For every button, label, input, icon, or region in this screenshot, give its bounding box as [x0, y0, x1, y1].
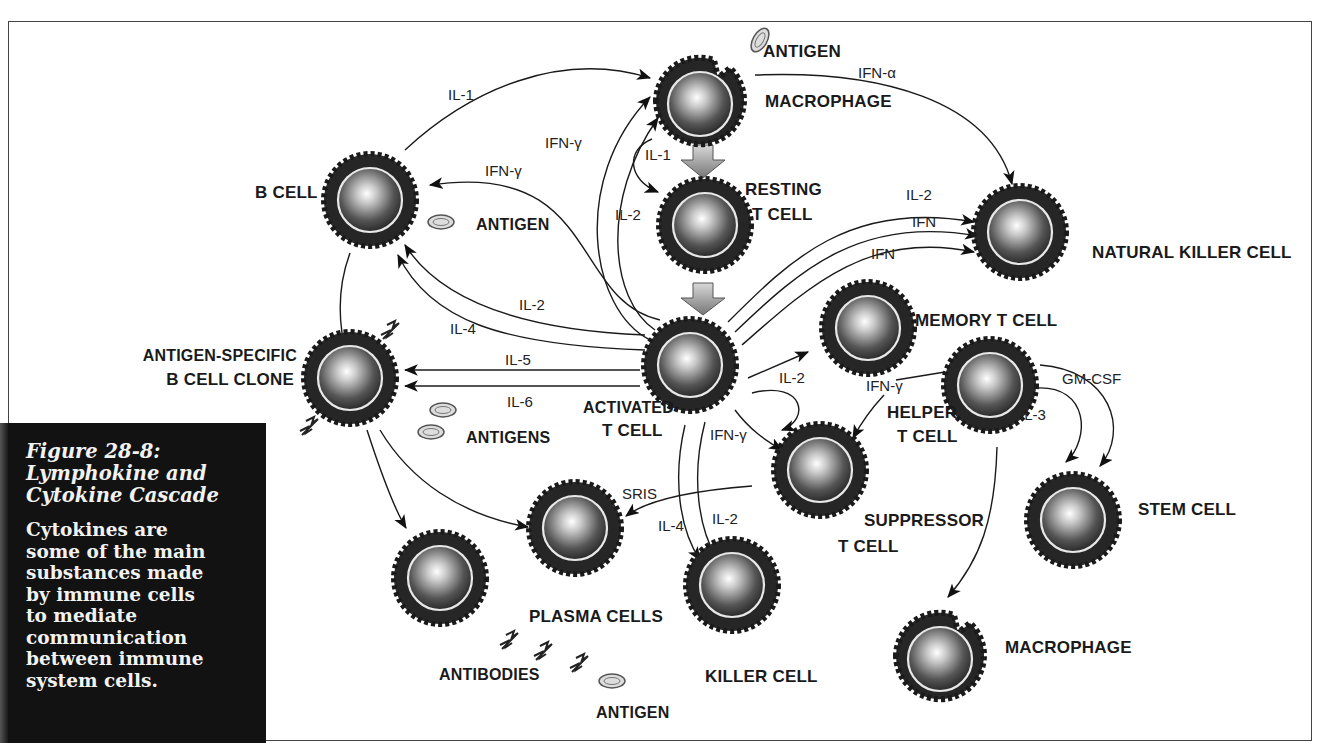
antigens-label: ANTIGENS — [466, 429, 550, 446]
activated-t-cell-label: T CELL — [602, 421, 663, 440]
suppressor-label: SUPPRESSOR — [864, 511, 984, 530]
caption-line: communication — [26, 627, 252, 649]
stem-cell-label: STEM CELL — [1138, 500, 1236, 519]
natural-killer-cell-icon — [974, 186, 1066, 278]
arrow-il1-b-to-macrophage — [405, 69, 650, 150]
caption-edge — [0, 423, 8, 743]
plasma-cell-2-icon — [394, 532, 486, 624]
cytokine-label: IL-3 — [1020, 406, 1046, 423]
cytokine-label: SRIS — [622, 485, 657, 502]
suppressor-t-cell-icon — [774, 424, 866, 516]
caption-line: system cells. — [26, 670, 252, 692]
figure-caption-box: Figure 28-8: Lymphokine and Cytokine Cas… — [0, 423, 266, 743]
b-cell-antigen-label: ANTIGEN — [476, 216, 549, 233]
helper-label: HELPER — [887, 403, 957, 422]
caption-line: by immune cells — [26, 584, 252, 606]
arrow-ifna-to-nk — [755, 74, 1012, 184]
bottom-antigen-label: ANTIGEN — [596, 704, 669, 721]
helper-t-cell-label: T CELL — [897, 427, 958, 446]
b-cell-clone-label: B CELL CLONE — [166, 370, 294, 389]
transition-arrow-icon — [681, 145, 725, 178]
antigen-specific-label: ANTIGEN-SPECIFIC — [143, 347, 298, 364]
arrow-ifng-to-b-cell — [430, 182, 660, 320]
figure-title-line: Lymphokine and — [26, 463, 252, 485]
arrow-loop-to-suppressor — [752, 390, 799, 430]
b-cell-clone-icon — [304, 332, 396, 424]
antibody-icon — [534, 642, 552, 660]
figure-number: Figure 28-8: — [26, 441, 252, 463]
antigen-icon — [430, 403, 456, 417]
macrophage-top-cell-icon — [656, 58, 744, 144]
cytokine-label: IL-6 — [507, 393, 533, 410]
arrow-helper-ifng-to-suppressor — [853, 395, 884, 438]
caption-line: to mediate — [26, 605, 252, 627]
caption-line: some of the main — [26, 541, 252, 563]
cytokine-label: IL-5 — [505, 351, 531, 368]
memory-t-cell-icon — [822, 282, 914, 374]
figure-title: Figure 28-8: Lymphokine and Cytokine Cas… — [26, 441, 252, 507]
cytokine-label: GM-CSF — [1062, 370, 1121, 387]
plasma-cell-icon — [529, 482, 621, 574]
cytokine-label: IFN — [912, 213, 936, 230]
plasma-cells-label: PLASMA CELLS — [529, 607, 663, 626]
antigen-icon — [428, 215, 454, 229]
cytokine-label: IFN-α — [858, 64, 896, 81]
arrow-clone-to-cell — [367, 430, 406, 528]
caption-line: between immune — [26, 648, 252, 670]
figure-description: Cytokines are some of the main substance… — [26, 519, 252, 691]
macrophage-label: MACROPHAGE — [765, 92, 892, 111]
suppressor-t-cell-label: T CELL — [838, 537, 899, 556]
cytokine-label: IFN-γ — [710, 426, 747, 443]
antibodies-label: ANTIBODIES — [439, 666, 540, 683]
cytokine-label: IL-1 — [645, 146, 671, 163]
killer-cell-icon — [686, 539, 778, 631]
cytokine-label: IFN-γ — [485, 162, 522, 179]
cytokine-label: IL-4 — [658, 517, 684, 534]
cytokine-label: IL-2 — [906, 186, 932, 203]
resting-label: RESTING — [745, 180, 822, 199]
cytokine-label: IL-2 — [712, 510, 738, 527]
antibody-icon — [300, 417, 318, 435]
antibody-icon — [381, 321, 399, 339]
antigen-label: ANTIGEN — [763, 42, 841, 61]
cytokine-label: IFN-γ — [545, 134, 582, 151]
antibody-icon — [570, 654, 588, 672]
activated-t-cell-icon — [644, 319, 736, 411]
cytokine-label: IFN — [871, 245, 895, 262]
b-cell-icon — [324, 154, 416, 246]
macrophage-bottom-cell-icon — [896, 613, 984, 699]
macrophage-bottom-label: MACROPHAGE — [1005, 638, 1132, 657]
resting-t-cell-label: T CELL — [752, 205, 813, 224]
cytokine-label: IL-2 — [779, 369, 805, 386]
stem-cell-icon — [1027, 474, 1119, 566]
b-cell-label: B CELL — [255, 183, 318, 202]
arrow-il3-to-stem — [1036, 388, 1081, 462]
resting-t-cell-icon — [659, 179, 751, 271]
cytokine-label: IL-4 — [450, 320, 476, 337]
cytokine-label: IL-1 — [448, 86, 474, 103]
cytokine-label: IL-2 — [615, 206, 641, 223]
figure-title-line: Cytokine Cascade — [26, 485, 252, 507]
line-b-cell-to-clone — [340, 253, 350, 333]
cytokine-label: IFN-γ — [866, 377, 903, 394]
antibody-icon — [500, 631, 518, 649]
natural-killer-cell-label: NATURAL KILLER CELL — [1092, 243, 1292, 262]
killer-cell-label: KILLER CELL — [705, 667, 818, 686]
antigen-icon — [418, 425, 444, 439]
cytokine-label: IL-2 — [519, 296, 545, 313]
caption-line: Cytokines are — [26, 519, 252, 541]
caption-line: substances made — [26, 562, 252, 584]
antigen-icon — [599, 674, 625, 688]
activation-arrow-icon — [681, 283, 725, 315]
memory-t-cell-label: MEMORY T CELL — [915, 311, 1057, 330]
line-helper-ifng — [896, 372, 945, 380]
activated-label: ACTIVATED — [583, 399, 674, 416]
